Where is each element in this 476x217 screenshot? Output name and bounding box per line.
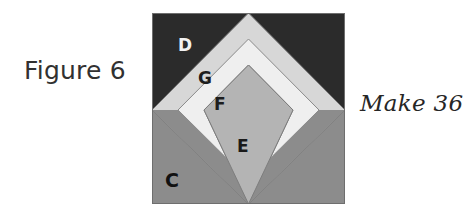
make-count-caption: Make 36 [360,90,464,116]
quilt-block-diagram: D C G F E [152,13,345,204]
figure-caption: Figure 6 [24,56,126,85]
quilt-block-svg [152,13,345,204]
figure-container: Figure 6 Make 36 D C G F [0,0,476,217]
